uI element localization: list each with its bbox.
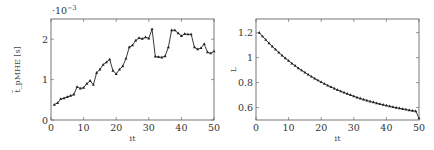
series-line bbox=[259, 33, 419, 118]
y-tick-label: 1 bbox=[42, 74, 48, 85]
y-scale-annotation: ·10−3 bbox=[52, 4, 77, 16]
figure: 01020304050012itt̄_pMHE [s]·10−3 0102030… bbox=[0, 0, 434, 150]
triangle-marker bbox=[124, 57, 127, 60]
plot-area bbox=[256, 19, 419, 120]
x-tick-label: 10 bbox=[283, 122, 295, 133]
triangle-marker bbox=[72, 93, 75, 96]
y-axis-label: t̄_pMHE [s] bbox=[12, 46, 22, 93]
triangle-marker bbox=[203, 42, 206, 45]
x-tick-label: 0 bbox=[253, 122, 259, 133]
triangle-marker bbox=[138, 36, 141, 39]
x-tick-label: 20 bbox=[110, 122, 122, 133]
triangle-marker bbox=[111, 69, 114, 72]
x-tick-label: 40 bbox=[380, 122, 392, 133]
y-tick-label: 1.2 bbox=[238, 27, 253, 38]
x-tick-label: 20 bbox=[315, 122, 327, 133]
x-tick-label: 40 bbox=[175, 122, 187, 133]
triangle-marker bbox=[76, 85, 79, 88]
triangle-marker bbox=[108, 58, 111, 61]
y-tick-label: 1 bbox=[247, 52, 253, 63]
right-chart-l: 010203040500.60.811.2itL bbox=[229, 19, 425, 143]
left-chart-t-pmhe: 01020304050012itt̄_pMHE [s]·10−3 bbox=[12, 4, 220, 143]
triangle-marker bbox=[144, 35, 147, 38]
triangle-marker bbox=[164, 54, 167, 57]
x-axis-label: it bbox=[335, 134, 342, 143]
x-tick-label: 30 bbox=[143, 122, 155, 133]
y-axis-label: L bbox=[229, 66, 238, 72]
triangle-marker bbox=[167, 46, 170, 49]
triangle-marker bbox=[154, 55, 157, 58]
triangle-marker bbox=[258, 31, 261, 34]
triangle-marker bbox=[151, 27, 154, 30]
triangle-marker bbox=[193, 46, 196, 49]
x-tick-label: 0 bbox=[48, 122, 54, 133]
triangle-marker bbox=[183, 32, 186, 35]
x-axis-label: it bbox=[130, 134, 137, 143]
x-tick-label: 30 bbox=[348, 122, 360, 133]
x-tick-label: 10 bbox=[78, 122, 90, 133]
y-tick-label: 0 bbox=[42, 115, 48, 126]
series-line bbox=[54, 29, 214, 105]
triangle-marker bbox=[206, 50, 209, 53]
triangle-marker bbox=[89, 79, 92, 82]
y-tick-label: 2 bbox=[42, 34, 48, 45]
x-tick-label: 50 bbox=[413, 122, 425, 133]
y-tick-label: 0.8 bbox=[238, 77, 253, 88]
chart-canvas: 01020304050012itt̄_pMHE [s]·10−3 0102030… bbox=[0, 0, 434, 150]
x-tick-label: 50 bbox=[208, 122, 220, 133]
triangle-marker bbox=[121, 65, 124, 68]
y-tick-label: 0.6 bbox=[238, 102, 253, 113]
